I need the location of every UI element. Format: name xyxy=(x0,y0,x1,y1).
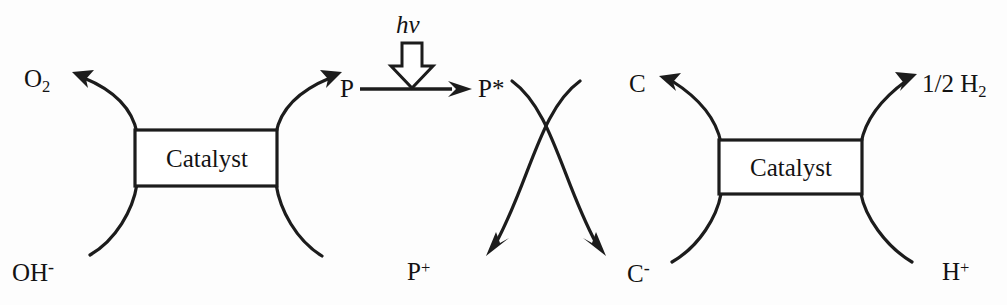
curve-water-oxidation-out xyxy=(72,70,137,133)
curve-pstar-to-cminus xyxy=(512,81,606,256)
curve-catalyst-left-to-p xyxy=(276,70,342,133)
label-photosensitizer-oxidized: P+ xyxy=(407,259,430,284)
label-proton: H+ xyxy=(942,259,969,284)
label-photosensitizer-excited: P* xyxy=(478,76,504,101)
photon-block-arrow xyxy=(391,43,433,88)
label-relay-reduced: C- xyxy=(627,259,650,286)
photocatalysis-diagram: O2 OH- Catalyst P hv P* P+ C C- Catalyst… xyxy=(0,0,1007,305)
curve-cminus-in xyxy=(672,194,721,262)
label-relay: C xyxy=(629,71,646,96)
diagram-vector-layer xyxy=(0,0,1007,305)
catalyst-left-label: Catalyst xyxy=(155,145,259,173)
curve-catalyst-left-from-pplus xyxy=(276,184,322,256)
label-oxygen: O2 xyxy=(24,66,50,95)
curve-hydroxide-in xyxy=(90,184,137,255)
arrowhead-o2 xyxy=(72,70,94,88)
arrowhead-cminus xyxy=(583,232,606,256)
curve-relay-out xyxy=(659,73,721,143)
curve-c-to-pplus xyxy=(486,81,580,256)
arrowhead-c xyxy=(659,73,681,91)
curve-proton-in xyxy=(861,194,912,262)
label-photon-hv: hv xyxy=(396,11,420,39)
label-hydrogen: 1/2 H2 xyxy=(922,71,987,100)
catalyst-right-label: Catalyst xyxy=(739,154,843,182)
curve-hydrogen-out xyxy=(861,72,917,143)
label-photosensitizer: P xyxy=(340,76,354,101)
label-hydroxide: OH- xyxy=(12,258,54,285)
arrowhead-pplus xyxy=(486,232,509,256)
arrowhead-to-p xyxy=(320,70,342,88)
